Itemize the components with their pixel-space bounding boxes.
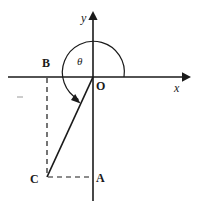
point-label-C: C [30,173,39,185]
point-label-O: O [96,80,105,92]
geometry-figure: y x O B A C θ [0,0,198,216]
y-axis-label: y [81,12,86,24]
y-axis-arrowhead [88,11,97,20]
x-axis-label: x [174,82,179,94]
point-label-A: A [96,172,105,184]
angle-label-theta: θ [77,56,82,67]
x-axis-arrowhead [182,72,191,82]
point-label-B: B [42,57,50,69]
